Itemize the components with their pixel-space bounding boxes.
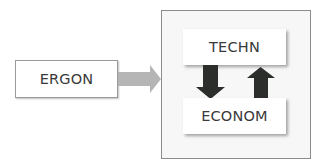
econom-label: ECONOM <box>201 108 268 124</box>
techn-node: TECHN <box>183 29 286 65</box>
right-arrow-icon <box>118 64 162 94</box>
up-arrow-icon <box>246 65 276 99</box>
techn-label: TECHN <box>209 39 260 55</box>
econom-node: ECONOM <box>183 98 286 134</box>
ergon-label: ERGON <box>40 71 94 87</box>
down-arrow-icon <box>196 65 226 99</box>
ergon-node: ERGON <box>15 60 118 98</box>
